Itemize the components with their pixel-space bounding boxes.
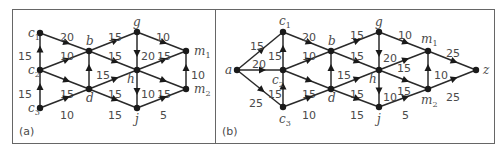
node-label-c2: c2 (28, 63, 40, 79)
edge-weight-label: 10 (434, 69, 448, 82)
node-c2 (280, 67, 286, 73)
edge-weight-label: 25 (446, 47, 460, 60)
node-g (134, 29, 140, 35)
node-label-m2: m2 (194, 82, 210, 98)
arrow-icon (376, 50, 383, 57)
node-m1 (183, 48, 189, 54)
node-label-c2: c2 (272, 73, 284, 89)
edge-weight-label: 15 (250, 40, 264, 53)
node-label-c3: c3 (28, 101, 40, 117)
edge-weight-label: 15 (337, 69, 351, 82)
panel-a-caption: (a) (19, 125, 34, 138)
edge-weight-label: 15 (18, 88, 32, 101)
arrow-icon (328, 64, 335, 71)
node-label-c3: c3 (279, 112, 291, 128)
edge-weight-label: 10 (383, 91, 397, 104)
edge-weight-label: 15 (108, 50, 122, 63)
node-h (376, 67, 382, 73)
arrow-icon (37, 46, 44, 53)
edge-weight-label: 10 (60, 50, 74, 63)
edge-weight-label: 15 (157, 50, 171, 63)
arrow-icon (134, 88, 141, 95)
node-label-g: g (133, 15, 141, 29)
node-j (134, 105, 140, 111)
arrow-icon (86, 64, 93, 71)
node-label-d: d (328, 91, 336, 105)
edge-weight-label: 20 (302, 31, 316, 44)
arrow-icon (401, 76, 410, 85)
edge-weight-label: 15 (350, 109, 364, 122)
edge-weight-label: 25 (446, 91, 460, 104)
node-m1 (425, 48, 431, 54)
node-label-g: g (375, 15, 383, 29)
edge-weight-label: 15 (108, 109, 122, 122)
edge-weight-label: 15 (268, 50, 282, 63)
edge-weight-label: 15 (18, 50, 32, 63)
node-label-d: d (86, 91, 94, 105)
edge-weight-label: 15 (397, 62, 411, 75)
node-label-h: h (127, 72, 135, 86)
edge-weight-label: 15 (350, 50, 364, 63)
edge-weight-label: 20 (60, 31, 74, 44)
node-label-m2: m2 (421, 93, 437, 109)
edge-weight-label: 25 (249, 97, 263, 110)
node-b (86, 48, 92, 54)
edge-weight-label: 15 (108, 31, 122, 44)
node-label-b: b (86, 34, 94, 48)
node-z (473, 67, 479, 73)
edge-weight-label: 10 (156, 31, 170, 44)
arrow-icon (37, 83, 44, 90)
arrow-icon (183, 64, 190, 71)
node-label-b: b (328, 34, 336, 48)
arrow-icon (450, 74, 459, 83)
node-h (134, 67, 140, 73)
node-label-h: h (369, 72, 377, 86)
arrow-icon (376, 88, 383, 95)
node-label-c1: c1 (28, 26, 40, 42)
edge-weight-label: 5 (160, 109, 167, 122)
node-label-c1: c1 (279, 14, 291, 30)
node-g (376, 29, 382, 35)
node-c3 (280, 104, 286, 110)
node-m2 (183, 86, 189, 92)
node-label-m1: m1 (194, 44, 210, 60)
edge-weight-label: 10 (398, 29, 412, 42)
node-m2 (425, 86, 431, 92)
edge-weight-label: 10 (141, 88, 155, 101)
outer-frame (13, 10, 495, 144)
arrow-icon (134, 50, 141, 57)
node-a (234, 67, 240, 73)
edge-weight-label: 10 (302, 109, 316, 122)
panel-b-caption: (b) (222, 125, 238, 138)
edge-weight-label: 10 (191, 69, 205, 82)
arrow-icon (425, 64, 432, 71)
edge-weight-label: 15 (268, 88, 282, 101)
node-label-j: j (374, 112, 381, 126)
arrow-icon (159, 76, 168, 85)
node-label-z: z (482, 63, 490, 77)
edge-weight-label: 5 (402, 109, 409, 122)
node-b (328, 48, 334, 54)
panel-b: 1520251515201015101515151515201010151551… (225, 14, 490, 128)
node-j (376, 104, 382, 110)
edge-weight-label: 10 (60, 109, 74, 122)
edge-weight-label: 10 (302, 50, 316, 63)
panel-a: 15152010151015151515152010101515510c1c2c… (18, 15, 210, 126)
arrow-icon (305, 76, 314, 85)
arrow-icon (111, 74, 120, 83)
edge-weight-label: 20 (141, 50, 155, 63)
edge-weight-label: 20 (252, 58, 266, 71)
node-label-m1: m1 (421, 32, 437, 48)
arrow-icon (62, 76, 71, 85)
edge-weight-label: 15 (96, 69, 110, 82)
node-label-a: a (225, 63, 232, 77)
edge-weight-label: 15 (350, 29, 364, 42)
network-flow-diagram: 15152010151015151515152010101515510c1c2c… (0, 0, 504, 152)
arrow-icon (353, 74, 362, 83)
node-label-j: j (132, 112, 139, 126)
